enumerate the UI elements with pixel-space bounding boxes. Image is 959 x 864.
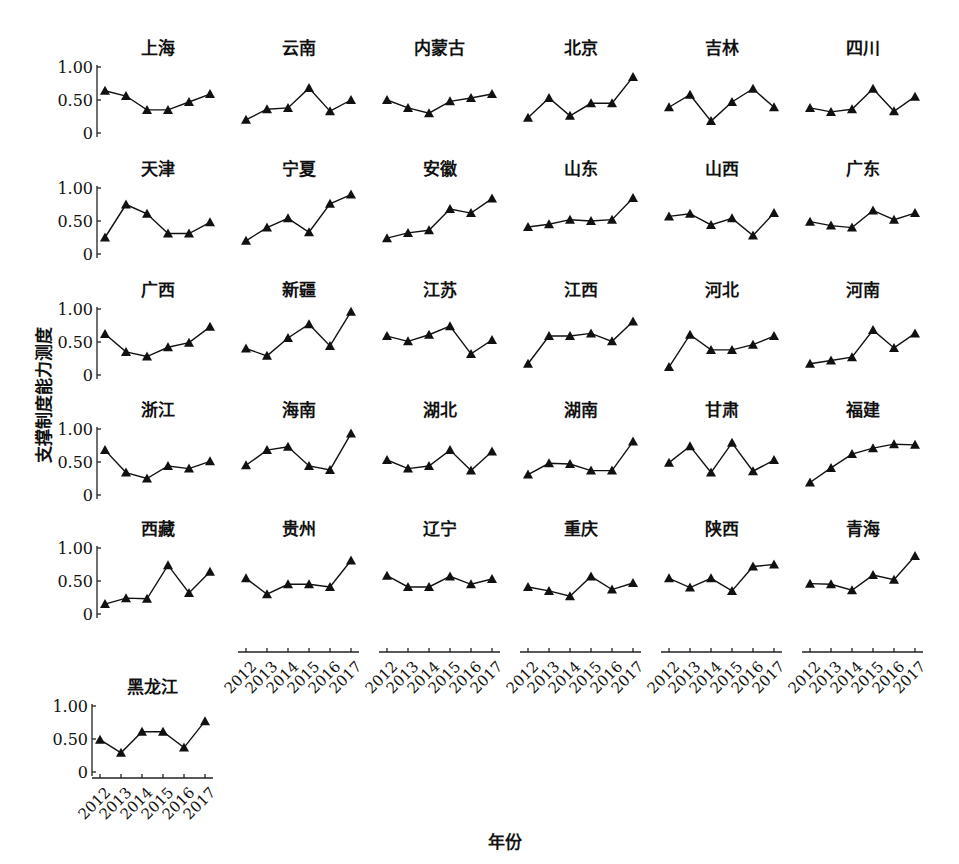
panel: 江苏 <box>382 280 497 358</box>
panel-title: 青海 <box>846 519 880 539</box>
panel-title: 四川 <box>846 38 880 58</box>
panel: 山东 <box>523 159 638 231</box>
series-line <box>246 312 351 356</box>
series-line <box>387 576 492 587</box>
data-point-marker <box>205 567 215 576</box>
panel: 河北 <box>664 280 779 371</box>
data-point-marker <box>121 200 131 209</box>
panel: 浙江00.501.00 <box>57 400 215 505</box>
data-point-marker <box>163 461 173 470</box>
data-point-marker <box>769 455 779 464</box>
data-point-marker <box>346 95 356 104</box>
panel-title: 河北 <box>705 280 739 300</box>
data-point-marker <box>868 205 878 214</box>
panel-title: 黑龙江 <box>127 677 178 697</box>
panel: 广东 <box>805 159 920 232</box>
data-point-marker <box>769 560 779 569</box>
data-point-marker <box>382 455 392 464</box>
data-point-marker <box>487 446 497 455</box>
panel: 山西 <box>664 159 779 240</box>
series-line <box>810 89 915 112</box>
data-point-marker <box>346 307 356 316</box>
panel-title: 北京 <box>564 38 598 58</box>
series-line <box>669 335 774 367</box>
data-point-marker <box>445 204 455 213</box>
series-line <box>105 91 210 110</box>
data-point-marker <box>826 463 836 472</box>
panel: 北京 <box>523 38 638 122</box>
data-point-marker <box>100 86 110 95</box>
panel: 安徽 <box>382 159 497 242</box>
data-point-marker <box>283 333 293 342</box>
data-point-marker <box>241 115 251 124</box>
series-line <box>246 88 351 120</box>
data-point-marker <box>100 233 110 242</box>
y-tick-label: 0 <box>83 605 93 624</box>
panel: 重庆201220132014201520162017 <box>503 519 648 697</box>
panel: 福建 <box>805 400 920 486</box>
data-point-marker <box>346 556 356 565</box>
data-point-marker <box>304 83 314 92</box>
data-point-marker <box>445 321 455 330</box>
data-point-marker <box>685 330 695 339</box>
panel-title: 云南 <box>282 38 316 58</box>
data-point-marker <box>424 330 434 339</box>
y-tick-label: 1.00 <box>57 420 93 439</box>
series-line <box>105 450 210 478</box>
panel: 天津00.501.00 <box>57 159 215 264</box>
series-line <box>528 77 633 118</box>
panel-title: 新疆 <box>282 280 316 300</box>
data-point-marker <box>805 477 815 486</box>
data-point-marker <box>262 589 272 598</box>
data-point-marker <box>805 217 815 226</box>
series-line <box>105 565 210 604</box>
panel-title: 湖北 <box>423 400 457 420</box>
panel-title: 江西 <box>564 280 598 300</box>
series-line <box>528 198 633 227</box>
panel: 广西00.501.00 <box>57 280 215 385</box>
panel: 江西 <box>523 280 638 368</box>
data-point-marker <box>184 97 194 106</box>
y-tick-label: 0 <box>83 245 93 264</box>
panel-title: 湖南 <box>564 400 598 420</box>
data-point-marker <box>628 578 638 587</box>
panel-title: 重庆 <box>564 519 598 539</box>
data-point-marker <box>910 92 920 101</box>
data-point-marker <box>205 89 215 98</box>
data-point-marker <box>523 582 533 591</box>
series-line <box>669 565 774 591</box>
y-tick-label: 1.00 <box>57 300 93 319</box>
data-point-marker <box>523 470 533 479</box>
series-line <box>387 326 492 354</box>
data-point-marker <box>487 89 497 98</box>
panel: 辽宁201220132014201520162017 <box>362 519 507 697</box>
chart-canvas: 上海00.501.00云南内蒙古北京吉林四川天津00.501.00宁夏安徽山东山… <box>0 0 959 864</box>
y-tick-label: 0.50 <box>57 453 93 472</box>
data-point-marker <box>262 223 272 232</box>
data-point-marker <box>706 573 716 582</box>
panel: 陕西201220132014201520162017 <box>644 519 789 697</box>
y-tick-label: 0.50 <box>57 572 93 591</box>
data-point-marker <box>241 236 251 245</box>
panel: 海南 <box>241 400 356 474</box>
data-point-marker <box>727 97 737 106</box>
data-point-marker <box>100 329 110 338</box>
data-point-marker <box>382 331 392 340</box>
data-point-marker <box>95 735 105 744</box>
data-point-marker <box>424 461 434 470</box>
data-point-marker <box>769 208 779 217</box>
data-point-marker <box>487 194 497 203</box>
data-point-marker <box>346 429 356 438</box>
series-line <box>246 561 351 595</box>
data-point-marker <box>748 84 758 93</box>
panel-title: 安徽 <box>423 159 458 179</box>
x-axis-title: 年份 <box>488 832 523 852</box>
data-point-marker <box>868 84 878 93</box>
data-point-marker <box>910 208 920 217</box>
panel-title: 广东 <box>846 159 880 179</box>
data-point-marker <box>184 338 194 347</box>
series-line <box>669 213 774 235</box>
series-line <box>669 89 774 121</box>
panel: 四川 <box>805 38 920 116</box>
panel-title: 甘肃 <box>705 400 739 420</box>
